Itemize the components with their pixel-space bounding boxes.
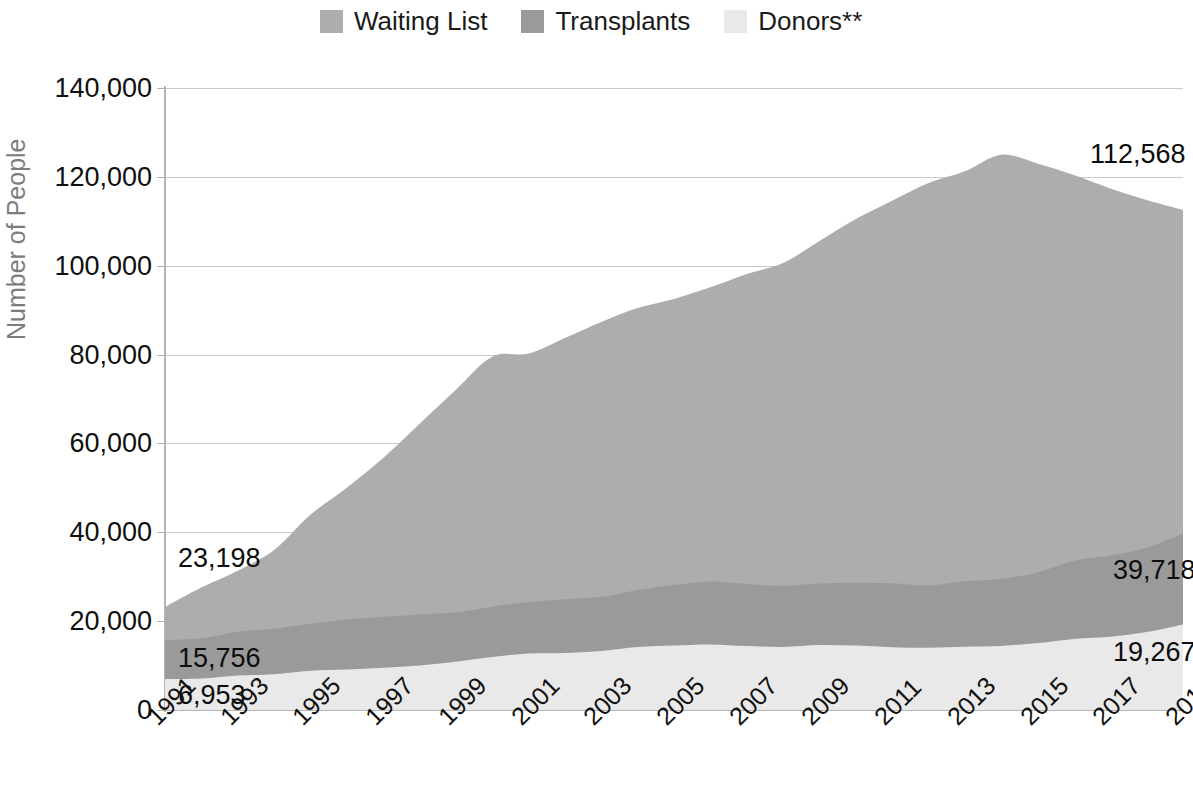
legend-label: Waiting List: [354, 8, 487, 34]
y-axis-tick-label: 20,000: [0, 608, 152, 635]
x-axis-tick-labels: 1991199319951997199920012003200520072009…: [0, 712, 1193, 800]
chart-page: Waiting List Transplants Donors** Number…: [0, 0, 1193, 800]
y-axis-tick-label: 140,000: [0, 75, 152, 102]
annotation-right-donors: 19,267: [1113, 639, 1193, 666]
y-axis-tick-label: 40,000: [0, 519, 152, 546]
annotation-left-transplants: 15,756: [178, 645, 261, 672]
annotation-right-waiting-list: 112,568: [1090, 141, 1186, 168]
legend-item-donors: Donors**: [724, 8, 862, 34]
legend-swatch-icon: [521, 10, 544, 33]
legend-swatch-icon: [724, 10, 747, 33]
annotation-left-waiting-list: 23,198: [178, 545, 261, 572]
chart-legend: Waiting List Transplants Donors**: [320, 8, 862, 34]
y-axis-tick-label: 120,000: [0, 164, 152, 191]
legend-label: Donors**: [758, 8, 862, 34]
y-axis-tick-labels: 140,000120,000100,00080,00060,00040,0002…: [0, 0, 152, 800]
y-axis-tick-label: 80,000: [0, 342, 152, 369]
annotation-right-transplants: 39,718: [1113, 557, 1193, 584]
legend-item-waiting-list: Waiting List: [320, 8, 487, 34]
legend-label: Transplants: [555, 8, 690, 34]
y-axis-tick-label: 100,000: [0, 253, 152, 280]
legend-swatch-icon: [320, 10, 343, 33]
area-chart-plot: [165, 88, 1183, 710]
legend-item-transplants: Transplants: [521, 8, 690, 34]
y-axis-tick-label: 60,000: [0, 430, 152, 457]
